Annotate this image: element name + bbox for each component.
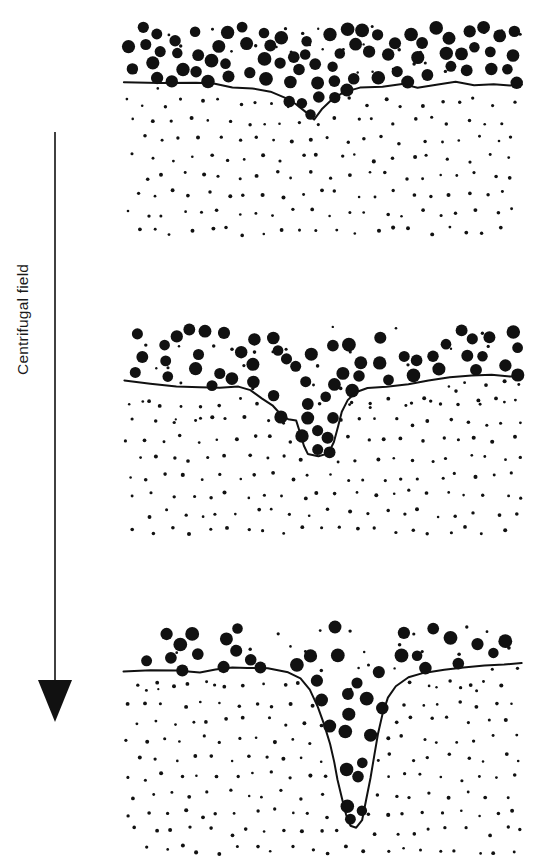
small-particle bbox=[370, 117, 373, 120]
small-particle bbox=[270, 770, 273, 773]
small-particle bbox=[291, 208, 294, 211]
small-particle bbox=[226, 159, 229, 162]
small-particle bbox=[348, 173, 352, 177]
small-particle bbox=[181, 775, 184, 778]
large-particle bbox=[136, 351, 148, 363]
small-particle bbox=[266, 456, 269, 459]
small-particle bbox=[439, 850, 442, 853]
small-particle bbox=[131, 118, 134, 121]
large-particle bbox=[151, 29, 162, 40]
small-particle bbox=[137, 192, 140, 195]
small-particle bbox=[465, 625, 468, 628]
large-particle bbox=[342, 338, 356, 352]
small-particle bbox=[199, 417, 202, 420]
large-particle bbox=[488, 648, 499, 659]
large-particle bbox=[207, 380, 218, 391]
small-particle bbox=[211, 28, 214, 31]
large-particle bbox=[312, 444, 323, 455]
large-particle bbox=[311, 76, 324, 89]
small-particle bbox=[412, 759, 415, 762]
small-particle bbox=[509, 135, 512, 138]
small-particle bbox=[289, 702, 293, 706]
small-particle bbox=[308, 774, 312, 778]
large-particle bbox=[230, 645, 242, 657]
large-particle bbox=[141, 655, 152, 666]
small-particle bbox=[335, 829, 339, 833]
small-particle bbox=[344, 844, 348, 848]
small-particle bbox=[515, 512, 519, 516]
small-particle bbox=[373, 417, 376, 420]
small-particle bbox=[460, 779, 463, 782]
small-particle bbox=[241, 193, 244, 196]
small-particle bbox=[314, 229, 317, 232]
small-particle bbox=[300, 756, 303, 759]
small-particle bbox=[320, 188, 324, 192]
small-particle bbox=[187, 795, 191, 799]
large-particle bbox=[290, 361, 301, 372]
small-particle bbox=[147, 399, 151, 403]
small-particle bbox=[291, 845, 294, 848]
small-particle bbox=[507, 825, 510, 828]
large-particle bbox=[322, 432, 334, 444]
large-particle bbox=[166, 75, 178, 87]
small-particle bbox=[138, 227, 142, 231]
small-particle bbox=[209, 826, 213, 830]
large-particle bbox=[193, 349, 204, 360]
small-particle bbox=[432, 460, 435, 463]
small-particle bbox=[499, 226, 503, 230]
small-particle bbox=[265, 755, 268, 758]
large-particle bbox=[398, 627, 410, 639]
small-particle bbox=[453, 472, 456, 475]
small-particle bbox=[236, 845, 239, 848]
small-particle bbox=[136, 684, 139, 687]
small-particle bbox=[421, 104, 425, 108]
small-particle bbox=[510, 702, 513, 705]
small-particle bbox=[419, 849, 422, 852]
panel-2 bbox=[124, 324, 525, 536]
small-particle bbox=[255, 402, 259, 406]
large-particle bbox=[427, 623, 439, 635]
small-particle bbox=[482, 760, 485, 763]
small-particle bbox=[218, 702, 221, 705]
small-particle bbox=[184, 171, 187, 174]
small-particle bbox=[292, 812, 295, 815]
small-particle bbox=[371, 25, 374, 28]
small-particle bbox=[468, 161, 471, 164]
large-particle bbox=[507, 325, 520, 338]
small-particle bbox=[350, 401, 353, 404]
small-particle bbox=[488, 834, 492, 838]
large-particle bbox=[485, 46, 496, 57]
small-particle bbox=[445, 716, 448, 719]
small-particle bbox=[472, 436, 476, 440]
large-particle bbox=[374, 332, 386, 344]
small-particle bbox=[425, 491, 429, 495]
small-particle bbox=[153, 757, 156, 760]
small-particle bbox=[278, 122, 281, 125]
small-particle bbox=[472, 171, 475, 174]
small-particle bbox=[146, 178, 150, 182]
small-particle bbox=[402, 847, 405, 850]
small-particle bbox=[273, 807, 276, 810]
small-particle bbox=[387, 850, 390, 853]
small-particle bbox=[179, 382, 182, 385]
large-particle bbox=[212, 40, 225, 53]
small-particle bbox=[376, 793, 380, 797]
large-particle bbox=[221, 26, 234, 39]
small-particle bbox=[325, 816, 329, 820]
small-particle bbox=[188, 825, 191, 828]
small-particle bbox=[363, 651, 365, 653]
large-particle bbox=[507, 49, 520, 62]
large-particle bbox=[127, 63, 138, 74]
large-particle bbox=[138, 22, 149, 33]
small-particle bbox=[157, 688, 159, 690]
small-particle bbox=[230, 347, 234, 351]
small-particle bbox=[154, 455, 158, 459]
small-particle bbox=[239, 213, 242, 216]
large-particle bbox=[323, 28, 336, 41]
small-particle bbox=[213, 812, 216, 815]
large-particle bbox=[471, 638, 483, 650]
large-particle bbox=[240, 37, 253, 50]
small-particle bbox=[309, 138, 313, 142]
small-particle bbox=[290, 140, 294, 144]
large-particle bbox=[302, 398, 314, 410]
